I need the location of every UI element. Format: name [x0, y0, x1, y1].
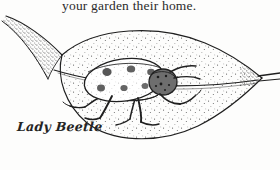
leaf-stem [0, 10, 70, 90]
illustration-caption: Lady Beetle [16, 119, 103, 134]
illustrated-page: your garden their home. [0, 0, 280, 170]
lady-beetle-illustration [0, 0, 280, 170]
beetle-head [149, 69, 177, 95]
leaf-tip [240, 66, 280, 86]
